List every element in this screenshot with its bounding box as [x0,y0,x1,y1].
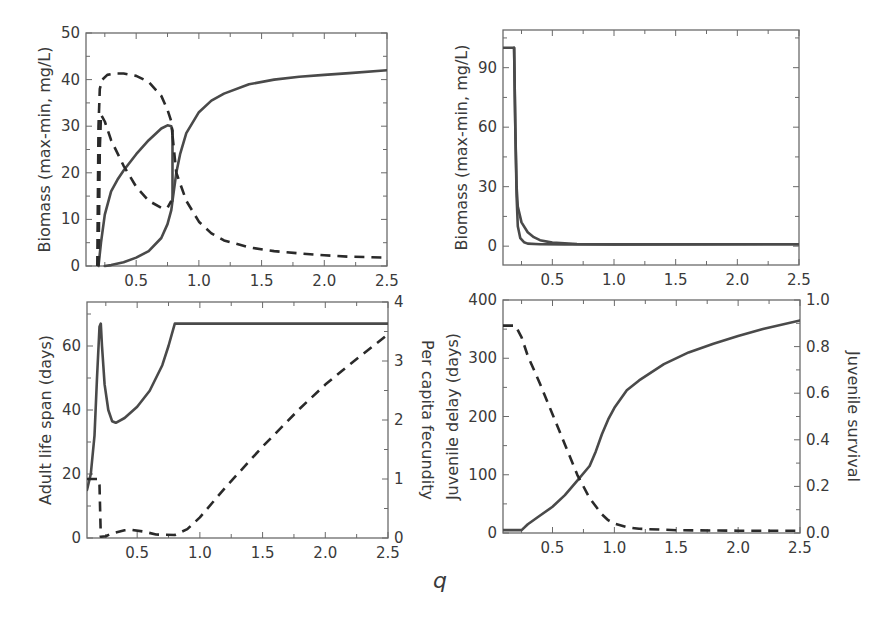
y-axis-left: 01020304050 [61,24,387,275]
y-axis-label: Adult life span (days) [36,335,55,505]
y-tick-label: 0 [487,237,497,255]
x-tick-label: 1.5 [664,539,688,557]
plot-frame [87,302,388,538]
dashed-line [503,326,800,531]
y-tick-label: 20 [61,164,80,182]
x-tick-label: 2.5 [787,271,811,289]
y-tick-label: 60 [478,118,497,136]
x-tick-label: 0.5 [125,544,149,562]
y-tick-label: 100 [468,466,497,484]
y-tick-label: 40 [61,71,80,89]
y-tick-label: 90 [478,59,497,77]
y-right-tick-label: 0.4 [806,431,830,449]
y-right-tick-label: 1 [394,470,404,488]
y-right-tick-label: 0 [394,529,404,547]
x-axis: 0.51.01.52.02.5 [106,302,400,562]
dashed-line [87,334,388,536]
y-axis-label: Biomass (max-min, mg/L) [452,45,471,251]
y-tick-label: 10 [61,210,80,228]
series-group [87,324,388,537]
y-axis-right-label: Juvenile survival [844,350,863,482]
y-tick-label: 50 [61,24,80,42]
series-group [503,320,800,530]
x-tick-label: 1.0 [602,271,626,289]
plot-frame [503,300,800,533]
solid-line [87,324,388,490]
y-tick-label: 0 [71,529,81,547]
x-tick-label: 2.0 [313,544,337,562]
y-tick-label: 300 [468,349,497,367]
x-axis: 0.51.01.52.02.5 [522,300,812,557]
x-tick-label: 2.0 [726,539,750,557]
solid-line [173,70,388,201]
panel-bottom-right: 0.51.01.52.02.501002003004000.00.20.40.6… [443,291,863,557]
figure: 0.51.01.52.02.501020304050Biomass (max-m… [0,0,889,617]
solid-line [503,320,800,530]
solid-line [99,125,173,266]
dashed-line [173,136,388,258]
y-right-tick-label: 2 [394,411,404,429]
x-tick-label: 1.0 [187,272,211,290]
y-tick-label: 30 [478,178,497,196]
y-tick-label: 40 [62,401,81,419]
panel-top-left: 0.51.01.52.02.501020304050Biomass (max-m… [35,24,399,290]
y-axis-left: 0204060 [62,314,93,547]
x-tick-label: 2.5 [375,272,399,290]
series-group [503,48,799,245]
panel-top-right: 0.51.01.52.02.50306090Biomass (max-min, … [452,30,811,289]
y-tick-label: 30 [61,117,80,135]
plot-frame [503,30,799,265]
y-tick-label: 0 [487,524,497,542]
y-right-tick-label: 1.0 [806,291,830,309]
x-tick-label: 0.5 [124,272,148,290]
y-axis-right: 01234Per capita fecundity [382,293,437,547]
y-right-tick-label: 3 [394,352,404,370]
y-tick-label: 200 [468,408,497,426]
solid-line [503,48,799,245]
y-tick-label: 20 [62,465,81,483]
y-axis-left: 0306090 [478,38,799,255]
y-axis-label: Biomass (max-min, mg/L) [35,47,54,253]
x-tick-label: 0.5 [541,539,565,557]
series-group [97,70,387,266]
x-tick-label: 1.5 [251,544,275,562]
x-tick-label: 1.5 [664,271,688,289]
x-axis: 0.51.01.52.02.5 [522,30,811,289]
y-tick-label: 400 [468,291,497,309]
x-tick-label: 1.0 [188,544,212,562]
solid-line [514,48,799,245]
x-tick-label: 1.0 [602,539,626,557]
y-right-tick-label: 0.2 [806,477,830,495]
y-axis-right-label: Per capita fecundity [418,340,437,500]
y-right-tick-label: 0.8 [806,338,830,356]
y-axis-label: Juvenile delay (days) [443,333,462,501]
y-tick-label: 60 [62,337,81,355]
plot-frame [86,33,387,266]
x-tick-label: 1.5 [250,272,274,290]
x-tick-label: 0.5 [540,271,564,289]
y-right-tick-label: 4 [394,293,404,311]
dashed-line [99,115,172,267]
x-tick-label: 2.0 [725,271,749,289]
y-right-tick-label: 0.0 [806,524,830,542]
y-tick-label: 0 [70,257,80,275]
y-right-tick-label: 0.6 [806,384,830,402]
y-axis-right: 0.00.20.40.60.81.0Juvenile survival [794,291,863,542]
panel-bottom-left: 0.51.01.52.02.5020406001234Per capita fe… [36,293,437,562]
shared-x-axis-label: q [433,568,447,593]
x-tick-label: 2.0 [312,272,336,290]
